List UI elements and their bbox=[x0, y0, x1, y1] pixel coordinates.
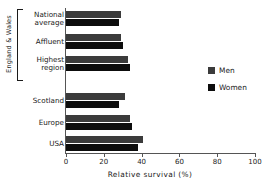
x-tick-label-40: 40 bbox=[137, 158, 146, 166]
group-axis-title-text: England & Wales bbox=[5, 15, 13, 73]
legend-item-women: Women bbox=[208, 83, 247, 92]
legend-swatch-women-icon bbox=[208, 84, 215, 91]
category-label-highest-region: Highestregion bbox=[20, 56, 64, 72]
x-tick-60 bbox=[179, 153, 180, 157]
group-axis-title: England & Wales bbox=[2, 8, 16, 80]
bar-women-2 bbox=[66, 64, 130, 71]
legend-label-men: Men bbox=[219, 66, 235, 75]
x-axis-line bbox=[66, 153, 255, 154]
category-label-scotland: Scotland bbox=[20, 97, 64, 105]
category-label-list: Nationalaverage Affluent Highestregion S… bbox=[20, 0, 64, 187]
bar-women-5 bbox=[66, 144, 138, 151]
legend-item-men: Men bbox=[208, 66, 247, 75]
legend-swatch-men-icon bbox=[208, 67, 215, 74]
x-tick-label-100: 100 bbox=[248, 158, 261, 166]
x-tick-20 bbox=[104, 153, 105, 157]
category-label-europe: Europe bbox=[20, 119, 64, 127]
bar-women-0 bbox=[66, 19, 119, 26]
category-label-usa: USA bbox=[20, 140, 64, 148]
x-tick-100 bbox=[255, 153, 256, 157]
legend-label-women: Women bbox=[219, 83, 247, 92]
legend: Men Women bbox=[208, 66, 247, 100]
bar-men-3 bbox=[66, 93, 125, 100]
x-tick-40 bbox=[142, 153, 143, 157]
x-tick-0 bbox=[66, 153, 67, 157]
bar-men-5 bbox=[66, 136, 143, 143]
bar-men-2 bbox=[66, 56, 128, 63]
category-label-national-average: Nationalaverage bbox=[20, 11, 64, 27]
category-label-affluent: Affluent bbox=[20, 38, 64, 46]
bar-women-4 bbox=[66, 123, 132, 130]
x-tick-label-60: 60 bbox=[175, 158, 184, 166]
x-axis-title: Relative survival (%) bbox=[40, 170, 260, 179]
x-tick-label-20: 20 bbox=[99, 158, 108, 166]
bar-men-1 bbox=[66, 34, 121, 41]
x-tick-label-80: 80 bbox=[213, 158, 222, 166]
bar-women-3 bbox=[66, 101, 119, 108]
x-tick-80 bbox=[217, 153, 218, 157]
x-tick-label-0: 0 bbox=[64, 158, 68, 166]
bar-men-4 bbox=[66, 115, 130, 122]
bar-women-1 bbox=[66, 42, 123, 49]
relative-survival-bar-chart: England & Wales Nationalaverage Affluent… bbox=[0, 0, 280, 187]
bar-men-0 bbox=[66, 11, 121, 18]
